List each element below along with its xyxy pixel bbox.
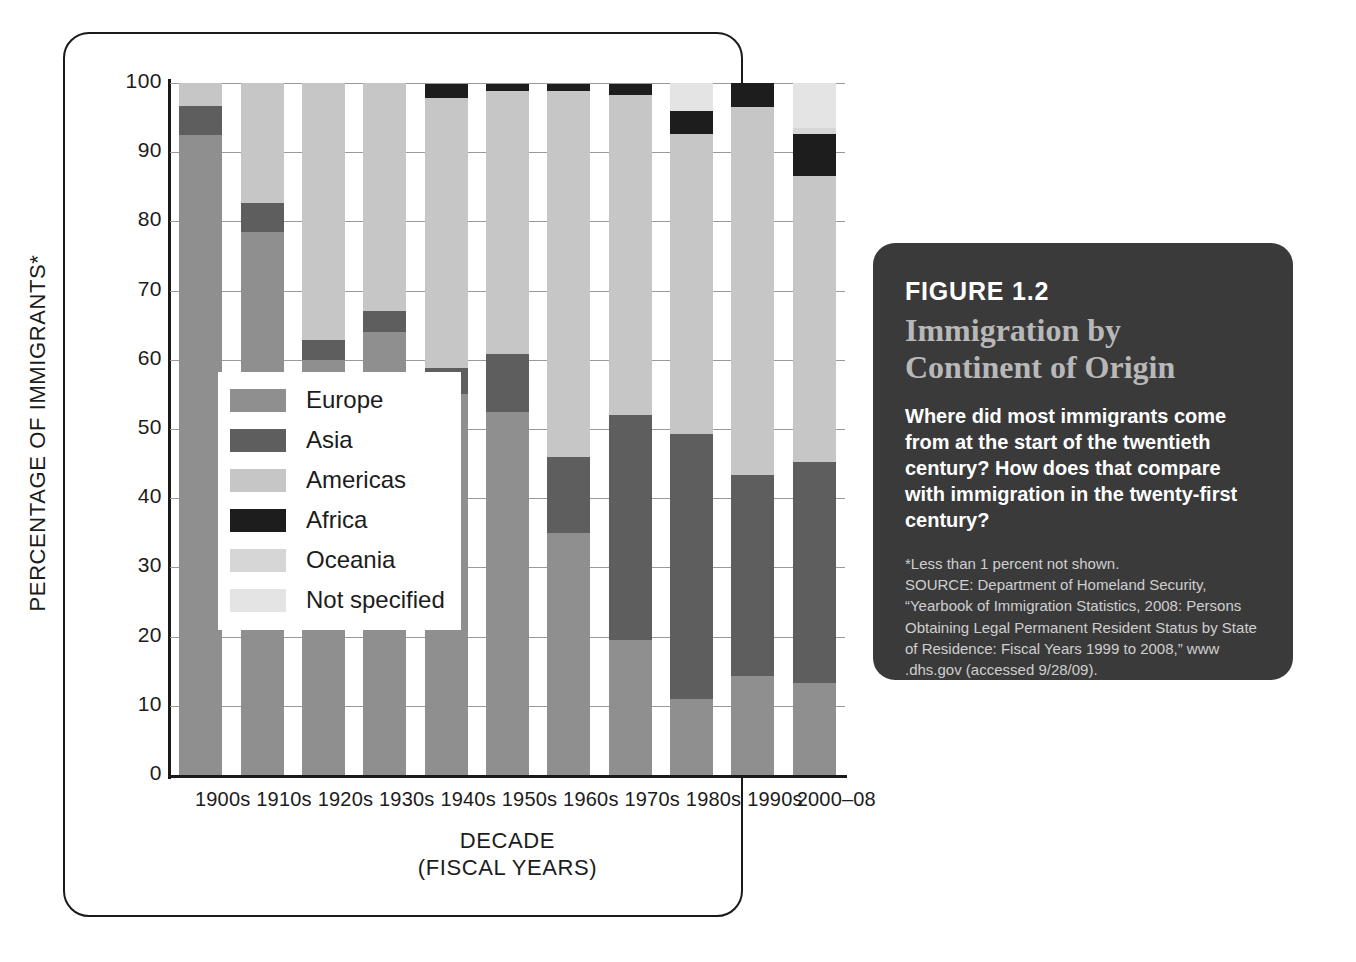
bar-1970s[interactable] bbox=[609, 83, 652, 775]
y-tick-label: 30 bbox=[98, 553, 162, 577]
bar-segment-europe[interactable] bbox=[547, 533, 590, 775]
legend-label: Africa bbox=[306, 506, 367, 534]
bar-segment-europe[interactable] bbox=[179, 135, 222, 775]
bar-1960s[interactable] bbox=[547, 83, 590, 775]
bar-segment-asia[interactable] bbox=[793, 462, 836, 683]
legend-item-americas[interactable]: Americas bbox=[230, 460, 445, 500]
bar-segment-africa[interactable] bbox=[609, 84, 652, 94]
figure-footnote: *Less than 1 percent not shown. bbox=[905, 553, 1263, 574]
legend-item-not-specified[interactable]: Not specified bbox=[230, 580, 445, 620]
bar-segment-americas[interactable] bbox=[547, 91, 590, 457]
bar-segment-americas[interactable] bbox=[670, 134, 713, 434]
bar-segment-europe[interactable] bbox=[486, 412, 529, 775]
legend-label: Asia bbox=[306, 426, 353, 454]
bar-segment-asia[interactable] bbox=[179, 106, 222, 135]
bar-1900s[interactable] bbox=[179, 83, 222, 775]
legend-item-asia[interactable]: Asia bbox=[230, 420, 445, 460]
bar-segment-africa[interactable] bbox=[731, 83, 774, 107]
bar-segment-asia[interactable] bbox=[547, 457, 590, 533]
x-axis-title-line1: DECADE bbox=[170, 828, 845, 855]
y-tick-label: 70 bbox=[98, 277, 162, 301]
y-tick-label: 0 bbox=[98, 761, 162, 785]
bar-segment-americas[interactable] bbox=[241, 83, 284, 203]
legend-label: Oceania bbox=[306, 546, 395, 574]
y-tick-label: 10 bbox=[98, 692, 162, 716]
y-axis-ticks: 0102030405060708090100 bbox=[92, 0, 162, 962]
bar-segment-americas[interactable] bbox=[609, 95, 652, 415]
legend-label: Americas bbox=[306, 466, 406, 494]
bar-segment-americas[interactable] bbox=[363, 83, 406, 311]
y-tick-label: 60 bbox=[98, 346, 162, 370]
bar-segment-asia[interactable] bbox=[670, 434, 713, 699]
y-tick-label: 100 bbox=[98, 69, 162, 93]
legend-swatch-icon bbox=[230, 389, 286, 412]
y-tick-label: 50 bbox=[98, 415, 162, 439]
x-axis-title-line2: (FISCAL YEARS) bbox=[170, 855, 845, 882]
bar-segment-americas[interactable] bbox=[179, 83, 222, 106]
legend-item-europe[interactable]: Europe bbox=[230, 380, 445, 420]
bar-segment-americas[interactable] bbox=[731, 107, 774, 475]
bar-segment-europe[interactable] bbox=[609, 640, 652, 775]
bar-segment-oceania[interactable] bbox=[793, 128, 836, 134]
legend-swatch-icon bbox=[230, 589, 286, 612]
y-tick-label: 20 bbox=[98, 623, 162, 647]
figure-number: FIGURE 1.2 bbox=[905, 277, 1263, 306]
figure-caption-panel: FIGURE 1.2 Immigration by Continent of O… bbox=[873, 243, 1293, 680]
x-tick-label: 2000–08 bbox=[791, 788, 881, 811]
y-tick-label: 80 bbox=[98, 207, 162, 231]
figure-title: Immigration by Continent of Origin bbox=[905, 312, 1263, 387]
bar-segment-americas[interactable] bbox=[793, 176, 836, 461]
legend-label: Europe bbox=[306, 386, 383, 414]
legend-swatch-icon bbox=[230, 429, 286, 452]
bar-segment-asia[interactable] bbox=[363, 311, 406, 332]
bar-segment-asia[interactable] bbox=[302, 340, 345, 360]
bar-1950s[interactable] bbox=[486, 83, 529, 775]
legend-swatch-icon bbox=[230, 509, 286, 532]
legend-swatch-icon bbox=[230, 469, 286, 492]
bar-1990s[interactable] bbox=[731, 83, 774, 775]
chart-legend: EuropeAsiaAmericasAfricaOceaniaNot speci… bbox=[218, 372, 461, 630]
bar-segment-asia[interactable] bbox=[486, 354, 529, 411]
bar-segment-europe[interactable] bbox=[793, 683, 836, 775]
bar-200008[interactable] bbox=[793, 83, 836, 775]
legend-item-africa[interactable]: Africa bbox=[230, 500, 445, 540]
legend-item-oceania[interactable]: Oceania bbox=[230, 540, 445, 580]
bar-segment-europe[interactable] bbox=[731, 676, 774, 775]
bar-segment-africa[interactable] bbox=[793, 134, 836, 177]
bar-segment-not-specified[interactable] bbox=[670, 83, 713, 111]
figure-title-line1: Immigration by bbox=[905, 312, 1263, 349]
y-tick-label: 90 bbox=[98, 138, 162, 162]
legend-label: Not specified bbox=[306, 586, 445, 614]
bar-segment-americas[interactable] bbox=[302, 83, 345, 340]
figure-question: Where did most immigrants come from at t… bbox=[905, 403, 1263, 533]
bar-segment-americas[interactable] bbox=[486, 91, 529, 354]
legend-swatch-icon bbox=[230, 549, 286, 572]
bar-segment-africa[interactable] bbox=[425, 84, 468, 98]
bar-segment-asia[interactable] bbox=[731, 475, 774, 676]
bar-segment-europe[interactable] bbox=[670, 699, 713, 775]
bar-segment-asia[interactable] bbox=[241, 203, 284, 232]
bar-1980s[interactable] bbox=[670, 83, 713, 775]
bar-segment-not-specified[interactable] bbox=[793, 83, 836, 128]
y-axis-title: PERCENTAGE OF IMMIGRANTS* bbox=[25, 163, 51, 703]
bar-segment-africa[interactable] bbox=[670, 111, 713, 134]
bar-segment-asia[interactable] bbox=[609, 415, 652, 640]
figure-source: SOURCE: Department of Homeland Security,… bbox=[905, 574, 1263, 680]
gridline bbox=[170, 775, 845, 777]
bar-segment-africa[interactable] bbox=[547, 84, 590, 91]
x-axis-title: DECADE (FISCAL YEARS) bbox=[170, 828, 845, 882]
bar-segment-americas[interactable] bbox=[425, 98, 468, 368]
figure-title-line2: Continent of Origin bbox=[905, 349, 1263, 386]
bar-segment-africa[interactable] bbox=[486, 84, 529, 91]
y-tick-label: 40 bbox=[98, 484, 162, 508]
